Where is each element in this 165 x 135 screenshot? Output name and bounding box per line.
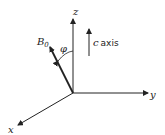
x-axis-label: x — [8, 124, 14, 135]
b0-label: B0 — [36, 36, 49, 49]
y-axis-label: y — [149, 89, 156, 100]
coordinate-diagram: z y x B0 φ caxis — [0, 0, 165, 135]
z-axis-label: z — [72, 6, 79, 17]
phi-label: φ — [60, 43, 67, 54]
c-axis-label: caxis — [93, 37, 119, 48]
x-axis — [18, 93, 73, 125]
